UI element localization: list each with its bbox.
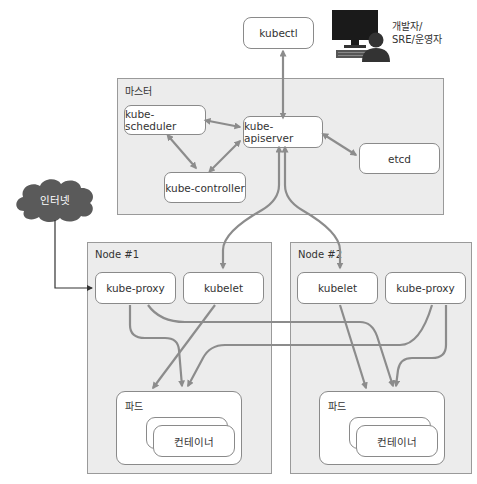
node-1-kube-proxy-box: kube-proxy — [95, 272, 176, 304]
developer-workstation-icon — [330, 8, 396, 64]
etcd-box: etcd — [359, 143, 440, 174]
node-1-kubelet-label: kubelet — [204, 282, 243, 294]
user-role-label: 개발자/ SRE/운영자 — [392, 20, 477, 46]
node-2-kube-proxy-box: kube-proxy — [385, 272, 466, 304]
etcd-label: etcd — [388, 153, 411, 165]
node-2-label: Node #2 — [298, 249, 342, 260]
user-role-line2: SRE/운영자 — [392, 33, 477, 46]
node-1-kube-proxy-label: kube-proxy — [106, 282, 165, 294]
kube-scheduler-box: kube-scheduler — [124, 105, 206, 135]
node-2-container-label: 컨테이너 — [377, 434, 417, 449]
node-1-container-box: 컨테이너 — [153, 425, 235, 457]
node-2-kubelet-label: kubelet — [318, 282, 357, 294]
kube-controller-label: kube-controller — [165, 182, 244, 194]
node-2-pod-label: 파드 — [328, 398, 346, 413]
node-2-kube-proxy-label: kube-proxy — [396, 282, 455, 294]
kube-apiserver-label: kube-apiserver — [244, 120, 322, 144]
node-1-label: Node #1 — [95, 249, 139, 260]
node-1-kubelet-box: kubelet — [183, 272, 264, 304]
kube-scheduler-label: kube-scheduler — [125, 108, 205, 132]
kube-apiserver-box: kube-apiserver — [243, 116, 323, 148]
node-2-kubelet-box: kubelet — [297, 272, 378, 304]
kubectl-label: kubectl — [259, 27, 297, 39]
master-label: 마스터 — [125, 83, 152, 98]
internet-label: 인터넷 — [10, 192, 100, 207]
kube-controller-box: kube-controller — [164, 172, 246, 203]
user-role-line1: 개발자/ — [392, 20, 477, 33]
kubectl-box: kubectl — [243, 17, 314, 49]
node-1-container-label: 컨테이너 — [174, 434, 214, 449]
node-2-container-box: 컨테이너 — [356, 425, 438, 457]
node-1-pod-label: 파드 — [125, 398, 143, 413]
